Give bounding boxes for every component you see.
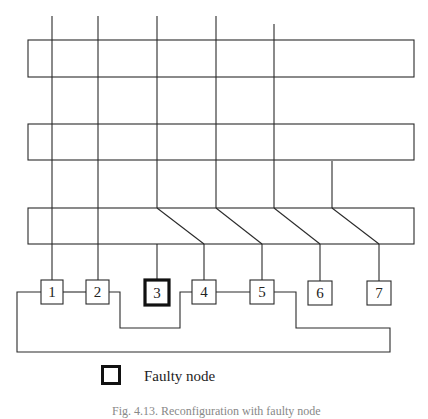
- bus-2: [28, 124, 414, 160]
- node-4-label: 4: [192, 285, 216, 300]
- shift-line-5-6: [274, 208, 320, 244]
- node-3-label: 3: [145, 286, 169, 301]
- shift-line-3-4: [157, 208, 204, 244]
- shift-line-4-5: [216, 208, 262, 244]
- bus-1: [28, 40, 414, 77]
- node-1-label: 1: [41, 285, 63, 300]
- faulty-node-legend-label: Faulty node: [144, 368, 215, 385]
- node-5-label: 5: [250, 285, 274, 300]
- figure-caption: Fig. 4.13. Reconfiguration with faulty n…: [112, 404, 321, 419]
- node-2-label: 2: [86, 285, 109, 300]
- node-7-label: 7: [367, 286, 391, 301]
- faulty-node-legend-icon: [101, 365, 121, 385]
- node-6-label: 6: [308, 286, 332, 301]
- shift-line-6-7: [332, 208, 379, 244]
